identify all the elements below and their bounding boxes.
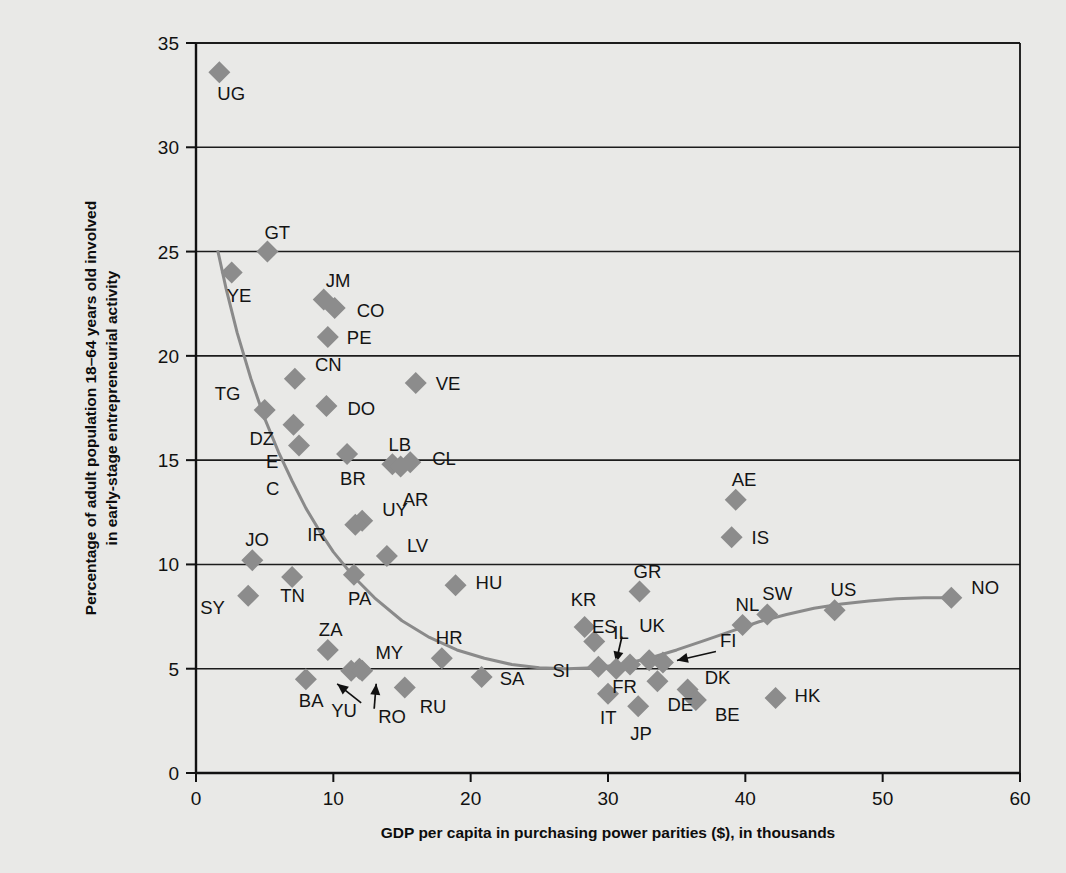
y-tick-label-0: 0 (168, 763, 179, 784)
x-tick-label-40: 40 (735, 788, 756, 809)
data-point-label-hu: HU (476, 572, 503, 593)
data-point-label-jp: JP (630, 723, 652, 744)
data-point-label-it: IT (600, 707, 616, 728)
data-point-label-pe: PE (347, 327, 372, 348)
data-point-label-is: IS (752, 527, 769, 548)
scatter-chart-figure: 0102030405060 05101520253035 UGGTYEJMCOP… (0, 0, 1066, 873)
data-point-label-jo: JO (245, 529, 269, 550)
data-point-label-be: BE (715, 704, 740, 725)
data-point-label-us: US (831, 579, 857, 600)
y-tick-label-10: 10 (158, 554, 179, 575)
data-point-label-ec: E (266, 451, 278, 472)
y-tick-label-5: 5 (168, 659, 179, 680)
data-point-label-ec: C (266, 478, 279, 499)
data-point-label-ug: UG (217, 83, 245, 104)
data-point-label-pa: PA (348, 588, 372, 609)
data-point-label-nl: NL (736, 594, 760, 615)
data-point-label-sy: SY (200, 597, 225, 618)
data-point-label-es: ES (592, 616, 617, 637)
data-point-label-za: ZA (319, 619, 343, 640)
data-point-label-ve: VE (436, 373, 461, 394)
data-point-label-hk: HK (795, 685, 821, 706)
data-point-label-de: DE (667, 694, 693, 715)
data-point-label-si: SI (552, 660, 569, 681)
y-tick-label-35: 35 (158, 33, 179, 54)
data-point-label-cn: CN (315, 354, 342, 375)
data-point-label-uy: UY (382, 499, 408, 520)
data-point-label-ir: IR (307, 524, 326, 545)
x-axis-title: GDP per capita in purchasing power parit… (381, 824, 835, 841)
data-point-label-my: MY (375, 642, 403, 663)
data-point-label-ae: AE (732, 469, 757, 490)
data-point-label-sa: SA (500, 668, 525, 689)
data-point-label-tg: TG (215, 383, 241, 404)
data-point-label-tn: TN (280, 585, 305, 606)
data-point-label-sw: SW (762, 583, 792, 604)
data-point-label-dk: DK (705, 667, 731, 688)
data-point-label-uk: UK (639, 615, 665, 636)
y-tick-label-15: 15 (158, 450, 179, 471)
data-point-label-fr: FR (612, 676, 637, 697)
y-tick-label-30: 30 (158, 137, 179, 158)
data-point-label-fi: FI (720, 630, 736, 651)
chart-canvas: 0102030405060 05101520253035 UGGTYEJMCOP… (0, 0, 1066, 873)
data-point-label-ba: BA (299, 690, 324, 711)
y-axis-title-line-1: Percentage of adult population 18–64 yea… (82, 201, 99, 615)
y-tick-label-25: 25 (158, 242, 179, 263)
data-point-label-lv: LV (407, 535, 429, 556)
data-point-label-ro: RO (378, 706, 406, 727)
data-point-label-lb: LB (388, 434, 411, 455)
x-tick-label-50: 50 (872, 788, 893, 809)
data-point-label-cl: CL (432, 448, 456, 469)
x-tick-label-30: 30 (597, 788, 618, 809)
data-point-label-no: NO (971, 577, 999, 598)
y-axis-title-line-2: in early-stage entrepreneurial activity (103, 270, 120, 545)
data-point-label-do: DO (347, 398, 375, 419)
data-point-label-hr: HR (436, 627, 463, 648)
data-point-label-br: BR (340, 468, 366, 489)
data-point-label-co: CO (357, 300, 385, 321)
data-point-label-kr: KR (571, 589, 597, 610)
data-point-label-jm: JM (326, 270, 351, 291)
data-point-label-gt: GT (264, 222, 290, 243)
data-point-label-ye: YE (227, 285, 252, 306)
data-point-label-gr: GR (634, 561, 662, 582)
x-tick-label-0: 0 (191, 788, 202, 809)
data-point-label-ru: RU (420, 696, 447, 717)
chart-background (0, 0, 1066, 873)
data-point-label-yu: YU (331, 700, 357, 721)
data-point-label-dz: DZ (250, 428, 275, 449)
x-tick-label-60: 60 (1009, 788, 1030, 809)
x-tick-label-10: 10 (323, 788, 344, 809)
y-tick-label-20: 20 (158, 346, 179, 367)
x-tick-label-20: 20 (460, 788, 481, 809)
